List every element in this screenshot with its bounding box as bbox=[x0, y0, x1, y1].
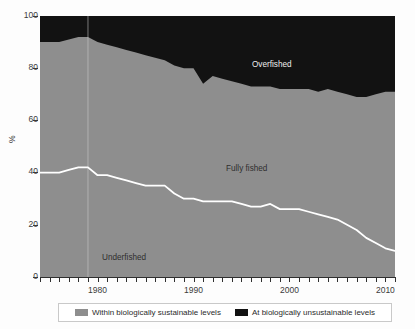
x-axis-line bbox=[40, 277, 396, 278]
x-tick-mark-1979 bbox=[88, 278, 89, 282]
x-tick-mark-1997 bbox=[261, 278, 262, 282]
legend-label-sustainable: Within biologically sustainable levels bbox=[92, 308, 221, 317]
x-tick-mark-1985 bbox=[146, 278, 147, 282]
x-tick-mark-1994 bbox=[232, 278, 233, 282]
x-tick-mark-1992 bbox=[213, 278, 214, 282]
x-tick-mark-2011 bbox=[395, 278, 396, 282]
x-tick-mark-2000 bbox=[289, 278, 290, 282]
x-tick-mark-1989 bbox=[184, 278, 185, 282]
legend: Within biologically sustainable levels A… bbox=[58, 303, 392, 322]
x-tick-mark-2002 bbox=[309, 278, 310, 282]
legend-item-unsustainable[interactable]: At biologically unsustainable levels bbox=[235, 308, 375, 317]
x-tick-label-2000: 2000 bbox=[269, 285, 309, 295]
x-tick-mark-1975 bbox=[50, 278, 51, 282]
x-tick-mark-1990 bbox=[194, 278, 195, 282]
x-tick-mark-1977 bbox=[69, 278, 70, 282]
x-tick-mark-2001 bbox=[299, 278, 300, 282]
x-tick-mark-1976 bbox=[59, 278, 60, 282]
y-tick-mark-60 bbox=[33, 120, 38, 121]
y-tick-mark-40 bbox=[33, 172, 38, 173]
x-tick-mark-2009 bbox=[376, 278, 377, 282]
x-tick-label-1990: 1990 bbox=[174, 285, 214, 295]
y-tick-mark-20 bbox=[33, 225, 38, 226]
x-tick-mark-2003 bbox=[318, 278, 319, 282]
x-tick-mark-1986 bbox=[155, 278, 156, 282]
legend-label-unsustainable: At biologically unsustainable levels bbox=[252, 308, 375, 317]
x-tick-mark-2004 bbox=[328, 278, 329, 282]
x-tick-mark-1988 bbox=[174, 278, 175, 282]
x-tick-mark-2010 bbox=[385, 278, 386, 282]
y-tick-mark-100 bbox=[33, 16, 38, 17]
region-label-underfished: Underfished bbox=[102, 253, 146, 262]
plot-area: Overfished Fully fished Underfished bbox=[40, 16, 395, 277]
x-tick-mark-1987 bbox=[165, 278, 166, 282]
x-tick-mark-2007 bbox=[357, 278, 358, 282]
stacked-area-svg bbox=[40, 16, 395, 277]
x-tick-label-1980: 1980 bbox=[78, 285, 118, 295]
x-tick-mark-1984 bbox=[136, 278, 137, 282]
area-unsustainable bbox=[40, 16, 395, 97]
x-tick-mark-1991 bbox=[203, 278, 204, 282]
x-tick-mark-1982 bbox=[117, 278, 118, 282]
legend-swatch-unsustainable bbox=[235, 309, 248, 316]
y-axis: 100 80 60 40 20 0 bbox=[8, 0, 38, 329]
x-tick-mark-1983 bbox=[126, 278, 127, 282]
legend-item-sustainable[interactable]: Within biologically sustainable levels bbox=[75, 308, 221, 317]
x-tick-mark-1978 bbox=[78, 278, 79, 282]
x-axis: 1980199020002010 bbox=[40, 277, 396, 303]
x-tick-mark-2006 bbox=[347, 278, 348, 282]
region-label-overfished: Overfished bbox=[252, 60, 292, 69]
x-tick-mark-2005 bbox=[337, 278, 338, 282]
x-tick-mark-2008 bbox=[366, 278, 367, 282]
chart-root: 100 80 60 40 20 0 % Overfished Fully fis… bbox=[0, 0, 415, 329]
x-tick-label-2010: 2010 bbox=[365, 285, 405, 295]
y-tick-mark-80 bbox=[33, 68, 38, 69]
region-label-fully-fished: Fully fished bbox=[226, 164, 267, 173]
x-tick-mark-1981 bbox=[107, 278, 108, 282]
y-axis-title: % bbox=[7, 135, 17, 143]
x-tick-mark-1999 bbox=[280, 278, 281, 282]
line-underfished-boundary bbox=[40, 167, 395, 251]
x-tick-mark-1998 bbox=[270, 278, 271, 282]
x-tick-mark-1995 bbox=[241, 278, 242, 282]
x-tick-mark-1974 bbox=[40, 278, 41, 282]
legend-swatch-sustainable bbox=[75, 309, 88, 316]
x-tick-mark-1980 bbox=[98, 278, 99, 282]
y-tick-mark-0 bbox=[33, 277, 38, 278]
x-tick-mark-1996 bbox=[251, 278, 252, 282]
x-tick-mark-1993 bbox=[222, 278, 223, 282]
